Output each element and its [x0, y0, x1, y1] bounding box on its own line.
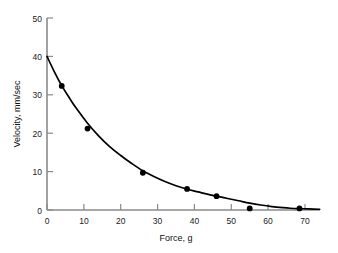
x-tick-label-70: 70 — [300, 216, 310, 226]
chart-figure: 50 40 30 20 10 0 0 10 20 30 40 50 60 — [0, 0, 338, 253]
x-tick-label-20: 20 — [116, 216, 126, 226]
data-point — [85, 126, 91, 132]
data-point — [184, 186, 190, 192]
x-axis-ticks — [47, 204, 305, 210]
x-axis-title: Force, g — [159, 233, 192, 243]
y-tick-label-10: 10 — [33, 167, 43, 177]
data-point — [214, 193, 220, 199]
data-point — [140, 170, 146, 176]
y-tick-label-20: 20 — [33, 129, 43, 139]
y-axis-title: Velocity, mm/sec — [12, 80, 22, 147]
y-axis-ticks — [47, 18, 53, 210]
data-point — [297, 206, 303, 212]
y-tick-label-30: 30 — [33, 90, 43, 100]
data-point — [59, 83, 65, 89]
velocity-force-curve — [47, 56, 320, 209]
y-tick-label-50: 50 — [33, 14, 43, 24]
data-point — [247, 206, 253, 212]
x-tick-label-40: 40 — [190, 216, 200, 226]
x-tick-label-50: 50 — [227, 216, 237, 226]
x-tick-label-10: 10 — [79, 216, 89, 226]
y-tick-label-0: 0 — [37, 206, 42, 216]
y-tick-label-40: 40 — [33, 52, 43, 62]
data-point-markers — [59, 83, 303, 211]
x-tick-label-30: 30 — [153, 216, 163, 226]
y-axis-tick-labels: 50 40 30 20 10 0 — [33, 14, 43, 216]
x-tick-label-60: 60 — [263, 216, 273, 226]
plot-area: 50 40 30 20 10 0 0 10 20 30 40 50 60 — [0, 0, 338, 253]
x-axis-tick-labels: 0 10 20 30 40 50 60 70 — [45, 216, 310, 226]
x-tick-label-0: 0 — [45, 216, 50, 226]
